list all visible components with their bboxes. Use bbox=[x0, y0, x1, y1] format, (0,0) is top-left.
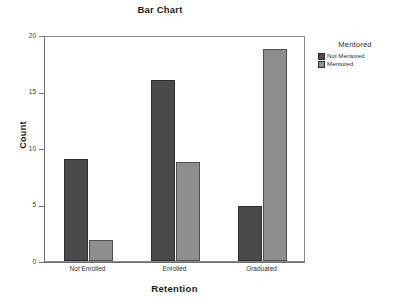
y-tick-label-15: 15 bbox=[10, 89, 36, 96]
legend-item-not-mentored[interactable]: Not Mentored bbox=[318, 53, 392, 60]
y-tick-5 bbox=[39, 206, 44, 207]
y-tick-0 bbox=[39, 262, 44, 263]
legend-items: Not MentoredMentored bbox=[318, 53, 392, 68]
x-tick-label-graduated: Graduated bbox=[218, 266, 305, 273]
y-tick-label-5: 5 bbox=[10, 202, 36, 209]
plot-area bbox=[44, 36, 305, 262]
y-tick-label-10: 10 bbox=[10, 146, 36, 153]
bar-enrolled-mentored bbox=[176, 162, 201, 261]
bar-not-enrolled-mentored bbox=[89, 240, 114, 261]
legend-item-label: Not Mentored bbox=[327, 53, 365, 59]
y-tick-10 bbox=[39, 149, 44, 150]
y-tick-label-0: 0 bbox=[10, 259, 36, 266]
y-tick-label-20: 20 bbox=[10, 33, 36, 40]
legend: Mentored Not MentoredMentored bbox=[318, 40, 392, 69]
legend-title: Mentored bbox=[318, 40, 392, 49]
y-tick-20 bbox=[39, 36, 44, 37]
bars-layer bbox=[45, 37, 304, 261]
x-tick-label-not-enrolled: Not Enrolled bbox=[44, 266, 131, 273]
legend-item-mentored[interactable]: Mentored bbox=[318, 61, 392, 68]
x-axis-title: Retention bbox=[44, 283, 305, 294]
y-axis-line bbox=[44, 36, 45, 262]
chart-title: Bar Chart bbox=[0, 4, 320, 15]
bar-enrolled-not-mentored bbox=[151, 80, 176, 261]
y-axis-title: Count bbox=[18, 105, 28, 165]
legend-swatch-icon bbox=[318, 61, 325, 68]
x-tick-label-enrolled: Enrolled bbox=[131, 266, 218, 273]
x-axis-line bbox=[44, 262, 305, 263]
legend-swatch-icon bbox=[318, 53, 325, 60]
legend-item-label: Mentored bbox=[327, 61, 353, 67]
bar-graduated-mentored bbox=[263, 49, 288, 261]
bar-graduated-not-mentored bbox=[238, 206, 263, 261]
bar-not-enrolled-not-mentored bbox=[64, 159, 89, 261]
y-tick-15 bbox=[39, 93, 44, 94]
bar-chart: Bar Chart Count 05101520 Not EnrolledEnr… bbox=[0, 0, 395, 305]
